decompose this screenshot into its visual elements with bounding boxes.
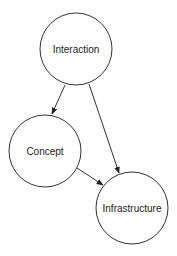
node-interaction: Interaction	[40, 13, 112, 85]
node-concept: Concept	[9, 115, 81, 187]
diagram-canvas: Interaction Concept Infrastructure	[0, 0, 177, 256]
edge-interaction-to-concept	[52, 85, 65, 114]
node-concept-label: Concept	[26, 146, 63, 157]
node-infrastructure: Infrastructure	[96, 172, 168, 244]
edge-interaction-to-infrastructure	[89, 84, 119, 173]
nodes: Interaction Concept Infrastructure	[9, 13, 168, 244]
node-infrastructure-label: Infrastructure	[103, 203, 162, 214]
edge-concept-to-infrastructure	[77, 168, 103, 185]
node-interaction-label: Interaction	[53, 44, 100, 55]
